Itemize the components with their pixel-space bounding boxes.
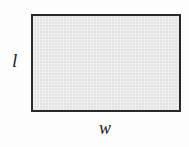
rectangle-shape [31, 14, 181, 112]
length-label: l [12, 51, 17, 70]
rectangle-diagram: l w [0, 0, 189, 147]
width-label: w [99, 119, 111, 137]
